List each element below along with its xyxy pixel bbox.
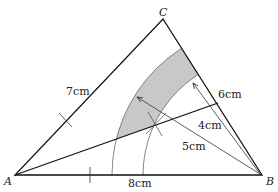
radius-arrow-5cm — [137, 97, 260, 174]
triangle-diagram: C A B 7cm 6cm 8cm 4cm 5cm — [0, 0, 278, 192]
side-ac-label: 7cm — [66, 85, 90, 98]
vertex-a-label: A — [3, 175, 12, 188]
side-ab-label: 8cm — [128, 177, 152, 190]
vertex-c-label: C — [159, 6, 168, 19]
radius-4cm-label: 4cm — [198, 119, 222, 132]
tick-mark-ac — [59, 113, 72, 127]
vertex-b-label: B — [265, 175, 274, 188]
angle-bisector — [15, 103, 218, 175]
radius-5cm-label: 5cm — [182, 140, 206, 153]
side-bc-label: 6cm — [218, 88, 242, 101]
